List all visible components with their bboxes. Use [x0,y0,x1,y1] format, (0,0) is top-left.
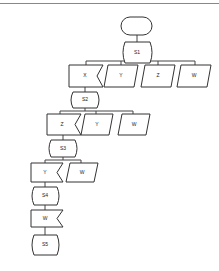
svg-text:W: W [43,215,48,221]
step-s5: S5 [32,235,59,255]
s1-branch-y: Y [104,65,138,87]
step-s2: S2 [71,92,99,108]
svg-text:W: W [80,169,85,175]
s2-branch-z: Z [47,114,81,135]
s4-branch-w: W [31,210,63,227]
s3-branch-y: Y [31,163,63,182]
s1-branch-z: Z [141,65,175,87]
svg-text:W: W [192,72,197,78]
step-s2-label: S2 [82,96,88,102]
step-s4: S4 [32,187,59,205]
start-terminal [121,17,152,35]
step-s3: S3 [49,140,77,157]
step-s3-label: S3 [60,145,66,151]
svg-text:Z: Z [156,72,159,78]
flowchart-diagram: S1 X Y Z W S2 Z Y W S3 Y [0,0,219,271]
step-s1-label: S1 [134,49,140,55]
svg-text:W: W [132,121,137,127]
step-s5-label: S5 [42,241,48,247]
step-s1: S1 [123,42,152,63]
s2-branch-y: Y [81,114,113,135]
step-s4-label: S4 [42,192,48,198]
svg-text:Z: Z [60,121,63,127]
s3-branch-w: W [66,163,98,182]
s2-branch-w: W [118,114,150,135]
s1-branch-x: X [69,65,103,87]
s1-branch-w: W [177,65,211,87]
